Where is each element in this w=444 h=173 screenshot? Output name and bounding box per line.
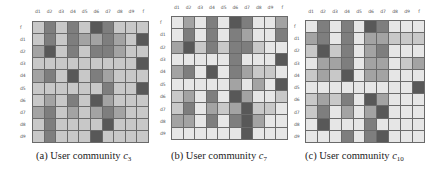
heatmap-cell [330,82,341,93]
heatmap-cell [330,45,341,56]
heatmap-cell [401,21,412,32]
heatmap-cell [342,21,353,32]
heatmap-cell [33,119,44,130]
heatmap-cell [56,95,67,106]
heatmap-cell [330,58,341,69]
heatmap-cell [91,119,102,130]
heatmap-cell [413,21,424,32]
heatmap-cell [230,79,241,90]
heatmap-cell [389,94,400,105]
heatmap-cell [230,66,241,77]
heatmap-cell [207,79,218,90]
heatmap-cell [114,22,125,33]
column-label: d5 [79,9,91,17]
heatmap-cell [91,46,102,57]
heatmap-cell [354,33,365,44]
row-label: f [294,20,304,32]
heatmap-cell [56,83,67,94]
heatmap-cell [265,54,276,65]
heatmap-cell [195,91,206,102]
heatmap-cell [342,33,353,44]
heatmap-cell [306,33,317,44]
heatmap-cell [306,131,317,142]
heatmap-cell [126,46,137,57]
heatmap-cell [242,79,253,90]
column-label: d3 [329,9,341,17]
heatmap-cell [365,131,376,142]
heatmap-cell [306,106,317,117]
heatmap-cell [401,45,412,56]
heatmap-cell [103,83,114,94]
row-label: d7 [160,103,170,115]
heatmap-cell [253,79,264,90]
heatmap-cell [389,33,400,44]
heatmap-cell [68,34,79,45]
heatmap-cell [207,103,218,114]
heatmap-cell [242,66,253,77]
heatmap-cell [306,119,317,130]
heatmap-cell [195,17,206,28]
heatmap-cell [45,58,56,69]
figure-caption: (b) User community c7 [171,150,267,163]
heatmap-cell [114,95,125,106]
column-label: d4 [67,9,79,17]
heatmap-cell [56,131,67,142]
heatmap-cell [242,29,253,40]
heatmap-cell [265,66,276,77]
heatmap-cell [253,66,264,77]
row-labels: fd1d2d3d4d5d6d7d8d9 [294,20,304,143]
heatmap-cell [342,58,353,69]
heatmap-cell [114,46,125,57]
column-label: d4 [206,5,218,13]
row-label: d8 [294,118,304,130]
heatmap-cell [33,131,44,142]
heatmap-cell [330,131,341,142]
heatmap-cell [91,83,102,94]
heatmap-cell [195,128,206,139]
row-labels: fd1d2d3d4d5d6d7d8d9 [20,21,30,143]
heatmap-cell [413,131,424,142]
heatmap-cell [114,70,125,81]
heatmap-cell [114,83,125,94]
heatmap-cell [230,115,241,126]
heatmap-cell [377,82,388,93]
heatmap-cell [318,82,329,93]
heatmap-cell [354,119,365,130]
heatmap-cell [33,34,44,45]
heatmap-cell [377,94,388,105]
heatmap-cell [377,45,388,56]
heatmap-cell [330,33,341,44]
column-label: d1 [32,9,44,17]
column-label: d1 [171,5,183,13]
heatmap-cell [195,115,206,126]
heatmap-cell [242,103,253,114]
heatmap-cell [230,29,241,40]
heatmap-cell [330,70,341,81]
figure-caption: (c) User community c10 [305,150,404,163]
heatmap-cell [401,82,412,93]
row-label: d1 [160,28,170,40]
heatmap-cell [68,58,79,69]
column-label: d9 [126,9,138,17]
heatmap-cell [103,131,114,142]
row-label: f [160,16,170,28]
heatmap-cell [306,21,317,32]
row-label: f [20,21,30,33]
row-label: d9 [20,131,30,143]
row-label: d1 [294,32,304,44]
heatmap-cell [318,70,329,81]
heatmap-cell [33,22,44,33]
heatmap-cell [126,119,137,130]
heatmap-cell [365,119,376,130]
heatmap-cell [218,42,229,53]
heatmap-cell [318,58,329,69]
heatmap-cell [389,21,400,32]
heatmap-cell [265,91,276,102]
heatmap-cell [103,95,114,106]
heatmap-cell [56,34,67,45]
heatmap-cell [413,45,424,56]
heatmap-cell [330,21,341,32]
heatmap-cell [207,42,218,53]
heatmap-cell [276,29,287,40]
heatmap-cell [137,34,148,45]
